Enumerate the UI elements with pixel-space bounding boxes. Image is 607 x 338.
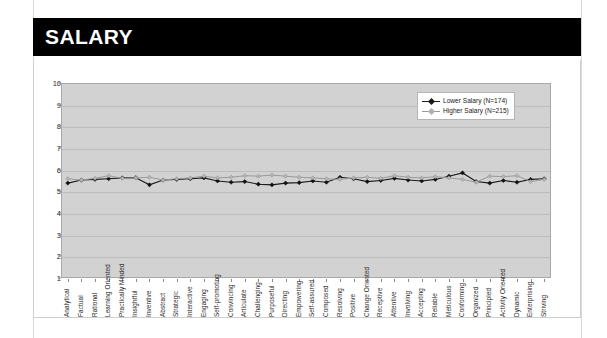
series-line [68, 173, 544, 185]
data-point-marker [515, 174, 519, 178]
data-point-marker [79, 178, 83, 182]
x-axis-tick-mark [408, 279, 409, 282]
x-axis-tick-mark [394, 279, 395, 282]
section-title-bar: SALARY [33, 18, 581, 56]
data-point-marker [66, 181, 70, 185]
data-point-marker [406, 175, 410, 179]
data-point-marker [134, 176, 138, 180]
x-axis-tick-label: Self-assured [308, 280, 315, 317]
x-axis-tick-label: Abstract [159, 293, 166, 317]
x-axis-tick-mark [190, 279, 191, 282]
data-point-marker [515, 180, 519, 184]
data-point-marker [107, 174, 111, 178]
x-axis-tick-label: Strategic [172, 291, 179, 317]
legend-item-higher-salary[interactable]: Higher Salary (N=215) [422, 106, 509, 116]
x-axis-tick-mark [449, 279, 450, 282]
x-axis-tick-label: Activity Oriented [499, 269, 506, 317]
x-axis-tick-mark [68, 279, 69, 282]
x-axis-tick-label: Inventive [145, 291, 152, 317]
x-axis-tick-label: Positive [349, 294, 356, 317]
x-axis-tick-mark [381, 279, 382, 282]
x-axis-tick-mark [177, 279, 178, 282]
data-point-marker [460, 177, 464, 181]
x-axis-tick-label: Attentive [390, 291, 397, 317]
x-axis-tick-label: Insightful [131, 290, 138, 317]
data-point-marker [256, 182, 260, 186]
x-axis-tick-mark [490, 279, 491, 282]
x-axis-tick-label: Resolving [336, 288, 343, 317]
data-point-marker [297, 181, 301, 185]
x-axis-tick-mark [81, 279, 82, 282]
x-axis-tick-label: Striving [540, 295, 547, 317]
x-axis-tick-label: Rational [91, 293, 98, 317]
x-axis-tick-label: Reliable [431, 293, 438, 317]
legend-marker-diamond-icon [422, 107, 440, 115]
data-point-marker [501, 175, 505, 179]
x-axis-tick-label: Analytical [63, 289, 70, 317]
data-point-marker [311, 176, 315, 180]
x-axis-tick-label: Dynamic [513, 291, 520, 317]
x-axis-tick-label: Self-promoting [213, 274, 220, 317]
data-point-marker [270, 173, 274, 177]
x-axis-tick-label: Directing [281, 291, 288, 317]
data-point-marker [283, 174, 287, 178]
x-axis-tick-label: Purposeful [268, 285, 275, 317]
data-point-marker [161, 178, 165, 182]
chart-legend: Lower Salary (N=174) Higher Salary (N=21… [417, 92, 515, 120]
page-canvas: SALARY 12345678910 AnalyticalFactualRati… [0, 0, 607, 338]
data-point-marker [229, 175, 233, 179]
x-axis-tick-label: Challenging [254, 282, 261, 317]
data-point-marker [433, 175, 437, 179]
data-point-marker [215, 176, 219, 180]
data-point-marker [324, 177, 328, 181]
x-axis-tick-mark [149, 279, 150, 282]
x-axis-tick-mark [163, 279, 164, 282]
x-axis-tick-mark [422, 279, 423, 282]
data-point-marker [66, 177, 70, 181]
x-axis-tick-mark [340, 279, 341, 282]
data-point-marker [147, 175, 151, 179]
chart-card: 12345678910 AnalyticalFactualRationalLea… [33, 60, 581, 318]
data-point-marker [243, 174, 247, 178]
data-point-marker [297, 175, 301, 179]
data-point-marker [120, 176, 124, 180]
legend-item-lower-salary[interactable]: Lower Salary (N=174) [422, 96, 509, 106]
x-axis-tick-mark [204, 279, 205, 282]
legend-label-higher-salary: Higher Salary (N=215) [443, 106, 509, 116]
data-point-marker [283, 181, 287, 185]
x-axis-tick-label: Practically Minded [118, 263, 125, 317]
x-axis-tick-mark [231, 279, 232, 282]
legend-label-lower-salary: Lower Salary (N=174) [443, 96, 507, 106]
x-axis-tick-label: Interactive [186, 286, 193, 317]
data-point-marker [392, 174, 396, 178]
x-axis-tick-label: Conforming [458, 283, 465, 317]
x-axis-tick-label: Factual [77, 295, 84, 317]
series-line [68, 175, 544, 182]
x-axis-tick-mark [544, 279, 545, 282]
data-point-marker [420, 176, 424, 180]
x-axis-tick-mark [326, 279, 327, 282]
x-axis-tick-mark [435, 279, 436, 282]
x-axis-tick-label: Accepting [417, 288, 424, 317]
x-axis-tick-label: Convincing [227, 284, 234, 317]
data-point-marker [270, 183, 274, 187]
x-axis-tick-label: Composed [322, 285, 329, 317]
data-point-marker [365, 175, 369, 179]
x-axis-tick-mark [245, 279, 246, 282]
x-axis-tick-mark [476, 279, 477, 282]
x-axis-tick-label: Organized [472, 287, 479, 317]
x-axis-tick-label: Principled [485, 288, 492, 317]
data-point-marker [243, 179, 247, 183]
x-axis-tick-label: Empowering [295, 280, 302, 317]
data-point-marker [147, 183, 151, 187]
data-point-marker [229, 180, 233, 184]
legend-marker-diamond-icon [422, 97, 440, 105]
x-axis-tick-label: Learning Oriented [104, 264, 111, 317]
series-lower-salary [66, 171, 547, 187]
data-point-marker [488, 181, 492, 185]
x-axis-tick-mark [354, 279, 355, 282]
chart-figure: 12345678910 AnalyticalFactualRationalLea… [34, 60, 582, 318]
x-axis-tick-label: Receptive [376, 288, 383, 317]
data-point-marker [365, 179, 369, 183]
data-point-marker [256, 174, 260, 178]
